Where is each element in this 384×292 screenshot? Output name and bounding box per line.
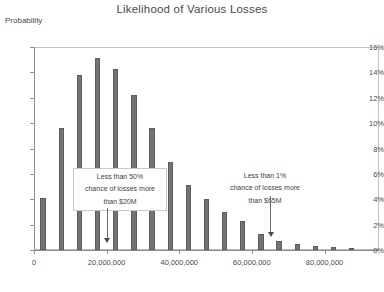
bar (95, 58, 100, 250)
annotation-line: than $20M (78, 196, 162, 208)
chart-annotation: Less than 1%chance of losses morethan $6… (218, 168, 312, 209)
x-tick-mark (34, 250, 35, 254)
bar (295, 244, 300, 250)
x-tick-mark (179, 250, 180, 254)
x-tick-mark (325, 250, 326, 254)
annotation-line: than $65M (222, 195, 308, 207)
x-tick-label: 20,000,000 (88, 258, 126, 267)
x-tick-label: 80,000,000 (306, 258, 344, 267)
bar (313, 246, 318, 250)
x-tick-label: 60,000,000 (233, 258, 271, 267)
chart-annotation: Less than 50%chance of losses morethan $… (73, 168, 167, 211)
bar (204, 199, 209, 250)
bar (276, 241, 281, 250)
bar (77, 75, 82, 250)
annotation-arrow-head (104, 238, 110, 243)
x-tick-mark (252, 250, 253, 254)
annotation-line: Less than 50% (78, 171, 162, 183)
bar (40, 198, 45, 250)
bar (258, 234, 263, 250)
bar (331, 247, 336, 250)
bar-series (34, 47, 379, 250)
x-tick-label: 40,000,000 (160, 258, 198, 267)
annotation-arrow-head (268, 232, 274, 237)
x-tick-mark (107, 250, 108, 254)
annotation-arrow-line (107, 208, 108, 238)
annotation-arrow-line (270, 196, 271, 232)
chart-title: Likelihood of Various Losses (0, 3, 384, 15)
y-axis-title: Probability (5, 16, 42, 25)
bar (59, 128, 64, 250)
x-tick-label: 0 (32, 258, 36, 267)
bar (222, 212, 227, 250)
annotation-line: chance of losses more (222, 182, 308, 194)
bar (240, 221, 245, 250)
chart-container: Likelihood of Various Losses Probability… (0, 0, 384, 292)
bar (186, 185, 191, 250)
bar (168, 162, 173, 250)
bar (113, 69, 118, 250)
x-axis-line (34, 250, 379, 251)
annotation-line: Less than 1% (222, 170, 308, 182)
bar (349, 248, 354, 250)
annotation-line: chance of losses more (78, 183, 162, 195)
